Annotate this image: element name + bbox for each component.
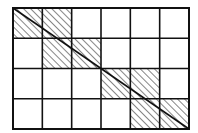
hatched-cell: [42, 8, 71, 38]
hatched-cell: [130, 99, 159, 129]
hatched-cell: [13, 8, 42, 38]
hatched-cell: [101, 69, 130, 99]
grid-diagonal-diagram: [0, 0, 198, 133]
hatched-cell: [160, 99, 189, 129]
hatched-cell: [72, 38, 101, 68]
hatched-cell: [42, 38, 71, 68]
hatched-cell: [130, 69, 159, 99]
